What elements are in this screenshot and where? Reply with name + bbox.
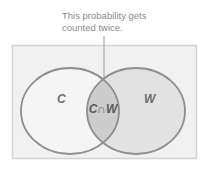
venn-diagram: C W C∩W xyxy=(0,0,206,171)
set-w-label: W xyxy=(144,92,157,106)
intersection-label: C∩W xyxy=(89,102,119,116)
set-c-label: C xyxy=(57,92,66,106)
